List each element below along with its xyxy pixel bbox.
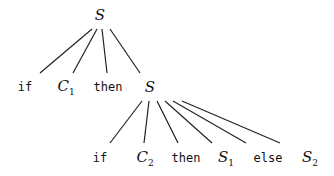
node-l1-s: S — [145, 78, 155, 96]
node-l2-else: else — [254, 151, 283, 165]
edge-sub-2 — [157, 101, 178, 143]
node-l2-then: then — [172, 151, 201, 165]
node-l1-if: if — [18, 80, 32, 94]
edge-root-2 — [102, 29, 107, 73]
edge-sub-4 — [173, 101, 246, 143]
edge-root-3 — [110, 29, 140, 73]
edge-sub-5 — [182, 101, 280, 143]
node-l2-c2: C2 — [136, 148, 153, 168]
node-l1-c1: C1 — [57, 77, 74, 97]
edge-sub-1 — [144, 101, 149, 143]
node-l2-if: if — [93, 151, 107, 165]
root-node-S: S — [95, 6, 105, 24]
tree-edges — [0, 0, 334, 176]
edge-sub-3 — [165, 101, 212, 143]
node-l2-s1: S1 — [218, 148, 234, 168]
edge-root-0 — [40, 29, 92, 73]
node-l2-s2: S2 — [302, 148, 318, 168]
node-l1-then: then — [94, 80, 123, 94]
edge-sub-0 — [110, 101, 142, 143]
